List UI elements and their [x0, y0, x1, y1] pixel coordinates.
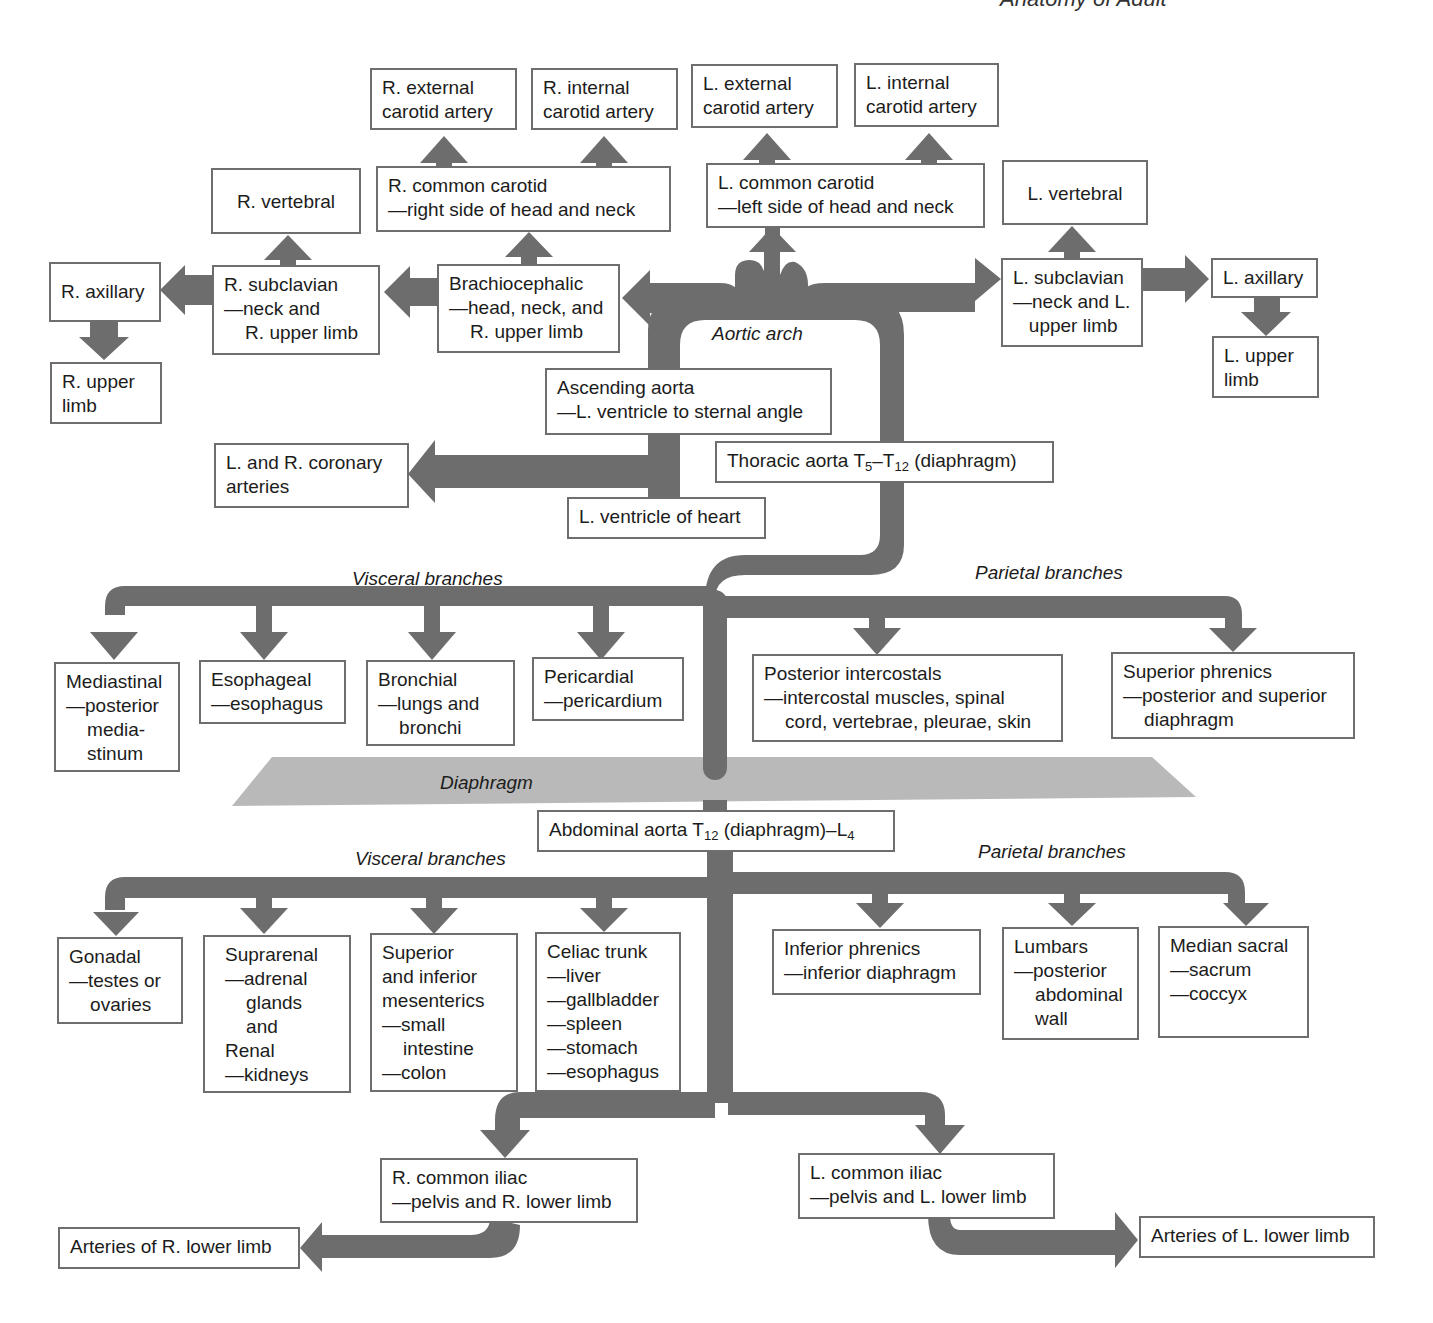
thoracic-aorta-label: Thoracic aorta T	[727, 450, 865, 471]
r-common-carotid-box: R. common carotid —right side of head an…	[376, 166, 671, 232]
r-axillary-box: R. axillary	[49, 262, 161, 322]
coronary-arteries-box: L. and R. coronary arteries	[214, 443, 409, 508]
thoracic-aorta-box: Thoracic aorta T5–T12 (diaphragm)	[715, 441, 1054, 483]
l-external-carotid-box: L. external carotid artery	[691, 64, 838, 128]
thoracic-parietal-label: Parietal branches	[975, 562, 1123, 584]
abdominal-aorta-box: Abdominal aorta T12 (diaphragm)–L4	[537, 810, 895, 852]
subscript: 12	[894, 459, 908, 474]
r-subclavian-box: R. subclavian —neck and R. upper limb	[212, 265, 380, 355]
pericardial-box: Pericardial —pericardium	[532, 657, 684, 721]
suprarenal-renal-box: Suprarenal —adrenal glands and Renal —ki…	[203, 935, 351, 1093]
posterior-intercostals-box: Posterior intercostals —intercostal musc…	[752, 654, 1063, 742]
l-common-iliac-box: L. common iliac —pelvis and L. lower lim…	[798, 1153, 1055, 1219]
abdominal-visceral-label: Visceral branches	[355, 848, 506, 870]
median-sacral-box: Median sacral —sacrum —coccyx	[1158, 926, 1309, 1038]
l-upper-limb-box: L. upper limb	[1212, 336, 1319, 398]
abdominal-aorta-label: (diaphragm)–L	[718, 819, 847, 840]
l-internal-carotid-box: L. internal carotid artery	[854, 63, 999, 127]
l-common-carotid-box: L. common carotid —left side of head and…	[706, 163, 985, 228]
bronchial-box: Bronchial —lungs and bronchi	[366, 660, 515, 746]
diaphragm-label: Diaphragm	[440, 772, 533, 794]
thoracic-aorta-label: (diaphragm)	[909, 450, 1017, 471]
r-internal-carotid-box: R. internal carotid artery	[531, 68, 678, 130]
l-axillary-box: L. axillary	[1211, 258, 1318, 298]
thoracic-aorta-label: –T	[872, 450, 894, 471]
ascending-aorta-box: Ascending aorta —L. ventricle to sternal…	[545, 368, 832, 435]
subscript: 4	[847, 828, 854, 843]
l-ventricle-box: L. ventricle of heart	[567, 497, 766, 539]
subscript: 12	[704, 828, 718, 843]
abdominal-parietal-label: Parietal branches	[978, 841, 1126, 863]
l-lower-limb-box: Arteries of L. lower limb	[1139, 1216, 1375, 1258]
l-subclavian-box: L. subclavian —neck and L. upper limb	[1001, 258, 1143, 347]
mesenterics-box: Superior and inferior mesenterics —small…	[370, 933, 518, 1092]
r-upper-limb-box: R. upper limb	[50, 362, 162, 424]
gonadal-box: Gonadal —testes or ovaries	[57, 937, 183, 1024]
l-vertebral-box: L. vertebral	[1002, 160, 1148, 225]
aorta-branch-diagram: Anatomy of Adult	[0, 0, 1433, 1323]
r-external-carotid-box: R. external carotid artery	[370, 68, 517, 130]
lumbars-box: Lumbars —posterior abdominal wall	[1002, 927, 1139, 1040]
mediastinal-box: Mediastinal —posterior media- stinum	[54, 662, 180, 772]
superior-phrenics-box: Superior phrenics —posterior and superio…	[1111, 652, 1355, 739]
esophageal-box: Esophageal —esophagus	[199, 660, 346, 724]
celiac-trunk-box: Celiac trunk —liver —gallbladder —spleen…	[535, 932, 681, 1092]
r-lower-limb-box: Arteries of R. lower limb	[58, 1227, 300, 1269]
brachiocephalic-box: Brachiocephalic —head, neck, and R. uppe…	[437, 264, 620, 353]
aortic-arch-label: Aortic arch	[712, 323, 803, 345]
inferior-phrenics-box: Inferior phrenics —inferior diaphragm	[772, 929, 981, 995]
r-common-iliac-box: R. common iliac —pelvis and R. lower lim…	[380, 1158, 638, 1223]
thoracic-visceral-label: Visceral branches	[352, 568, 503, 590]
r-vertebral-box: R. vertebral	[211, 168, 361, 234]
abdominal-aorta-label: Abdominal aorta T	[549, 819, 704, 840]
